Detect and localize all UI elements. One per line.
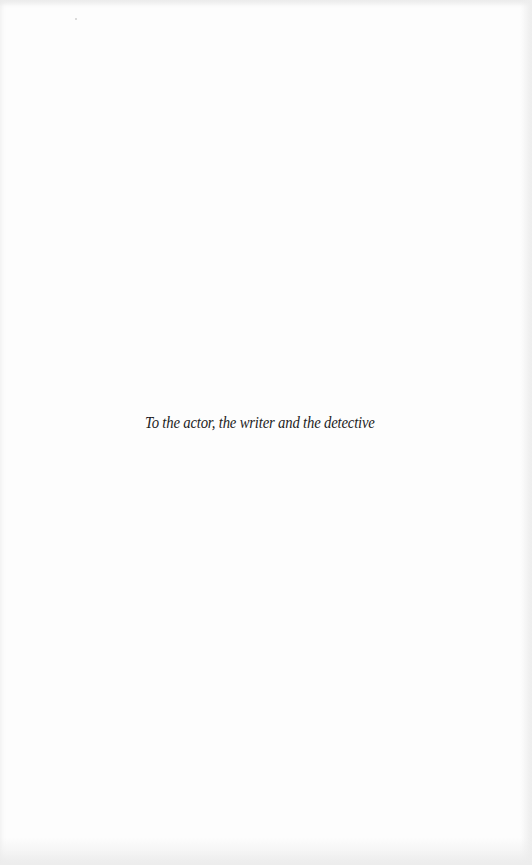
page-top-edge-shadow <box>0 0 532 6</box>
dedication: To the actor, the writer and the detecti… <box>0 413 532 433</box>
paper-speck <box>75 18 77 20</box>
book-page: To the actor, the writer and the detecti… <box>0 0 532 865</box>
page-bottom-edge-shadow <box>0 837 532 865</box>
dedication-text: To the actor, the writer and the detecti… <box>145 413 375 433</box>
